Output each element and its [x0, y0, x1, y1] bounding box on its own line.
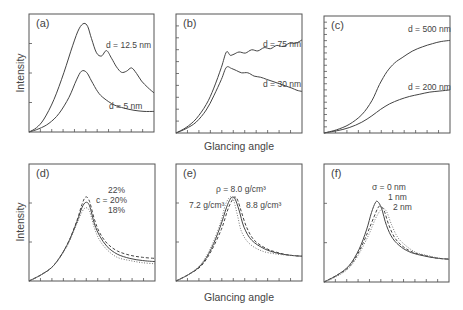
series-annotation: d = 5 nm	[109, 101, 142, 111]
panel-e: (e)ρ = 8.0 g/cm³7.2 g/cm³8.8 g/cm³	[176, 164, 302, 281]
series-annotation: d = 12.5 nm	[106, 40, 151, 50]
plot-frame	[29, 14, 154, 132]
plot-frame	[29, 164, 155, 281]
panel-label: (d)	[36, 167, 49, 179]
series-annotation: 18%	[108, 205, 125, 215]
x-axis-title-top: Glancing angle	[204, 140, 274, 152]
series-line-c-1	[324, 90, 450, 133]
panel-d: (d)22%c = 20%18%	[29, 164, 155, 281]
series-annotation: 1 nm	[388, 192, 407, 202]
x-axis-title-bottom: Glancing angle	[204, 291, 274, 303]
panel-a: (a)d = 12.5 nmd = 5 nm	[29, 14, 154, 132]
series-line-f-1	[324, 206, 449, 282]
series-annotation: d = 500 nm	[408, 24, 451, 34]
series-line-f-0	[324, 201, 449, 282]
panel-label: (f)	[331, 167, 341, 179]
panel-c: (c)d = 500 nmd = 200 nm	[324, 16, 451, 133]
plot-frame	[176, 14, 302, 133]
figure: (a)d = 12.5 nmd = 5 nm (b)d = 75 nmd = 3…	[0, 0, 463, 310]
panel-label: (a)	[36, 17, 49, 29]
series-annotation: d = 75 nm	[263, 39, 301, 49]
series-annotation: ρ = 8.0 g/cm³	[216, 184, 266, 194]
series-line-d-0	[29, 197, 155, 281]
series-annotation: d = 30 nm	[263, 79, 301, 89]
y-axis-title-top: Intensity	[14, 53, 26, 93]
series-line-d-1	[29, 202, 155, 281]
panel-b: (b)d = 75 nmd = 30 nm	[176, 14, 302, 133]
series-annotation: σ = 0 nm	[372, 182, 406, 192]
series-annotation: 2 nm	[393, 202, 412, 212]
panel-label: (c)	[331, 19, 344, 31]
series-annotation: 7.2 g/cm³	[189, 200, 225, 210]
plot-frame	[176, 164, 302, 281]
series-annotation: 22%	[108, 185, 125, 195]
panel-label: (e)	[183, 167, 196, 179]
series-annotation: 8.8 g/cm³	[246, 200, 282, 210]
series-line-b-1	[176, 67, 302, 133]
panel-f: (f)σ = 0 nm1 nm2 nm	[324, 164, 449, 282]
panel-label: (b)	[183, 17, 196, 29]
series-annotation: c = 20%	[96, 195, 127, 205]
y-axis-title-bottom: Intensity	[14, 202, 26, 242]
series-annotation: d = 200 nm	[408, 82, 451, 92]
